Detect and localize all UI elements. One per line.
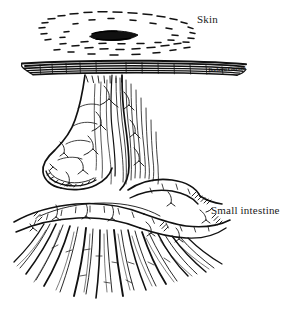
label-small-intestine: Small intestine [211,204,280,216]
ileostomy-stoma-drawing [0,0,291,311]
anatomical-illustration-figure: Skin Small intestine Barbara Cousins [0,0,291,311]
figure-background [0,0,291,311]
label-skin: Skin [197,13,218,25]
